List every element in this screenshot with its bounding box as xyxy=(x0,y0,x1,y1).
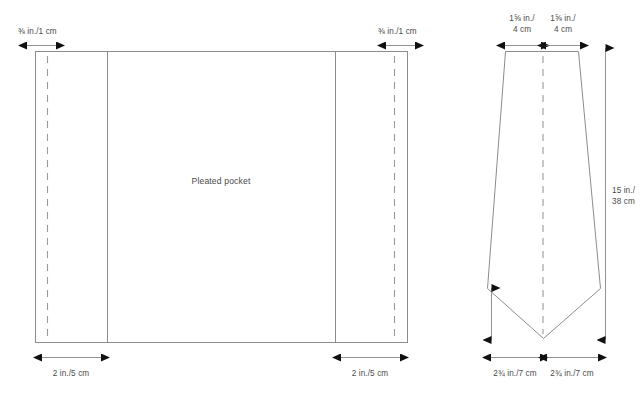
pocket-bottom-left-dimension-label: 2 in./5 cm xyxy=(53,369,90,380)
tie-top-right-dimension-label-line2: 4 cm xyxy=(554,25,572,36)
tie-bottom-right-dimension-label: 2¾ in./7 cm xyxy=(550,369,593,380)
pocket-top-left-dimension-label: ⅜ in./1 cm xyxy=(18,27,57,38)
tie-top-right-dimension-label-line1: 1⅝ in./ xyxy=(550,14,575,25)
tie-height-dimension-label-line2: 38 cm xyxy=(612,197,635,208)
pocket-stitch-lines xyxy=(48,56,395,338)
tie-top-left-dimension-label-line1: 1⅝ in./ xyxy=(509,14,534,25)
pattern-diagram: ⅜ in./1 cm ⅜ in./1 cm Pleated pocket 2 i… xyxy=(0,0,641,401)
pocket-bottom-right-dimension-label: 2 in./5 cm xyxy=(352,369,389,380)
tie-height-dimension-label-line1: 15 in./ xyxy=(612,186,635,197)
tie-bottom-left-dimension-label: 2¾ in./7 cm xyxy=(493,369,536,380)
tie-outline xyxy=(488,52,601,339)
pocket-top-right-dimension-label: ⅜ in./1 cm xyxy=(378,27,417,38)
pocket-outline xyxy=(36,52,408,343)
diagram-canvas xyxy=(0,0,641,401)
tie-top-left-dimension-label-line2: 4 cm xyxy=(513,25,531,36)
pocket-fold-lines xyxy=(108,52,336,342)
pocket-piece-label: Pleated pocket xyxy=(192,176,251,186)
